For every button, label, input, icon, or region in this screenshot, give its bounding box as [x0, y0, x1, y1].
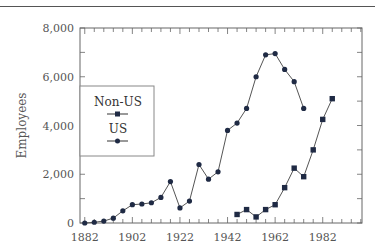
non-us-series-line — [237, 99, 332, 217]
us-data-point — [120, 208, 125, 213]
y-tick-label: 8,000 — [43, 22, 75, 35]
us-data-point — [234, 120, 239, 125]
x-tick-label: 1922 — [166, 231, 194, 244]
x-tick-label: 1902 — [118, 231, 146, 244]
us-data-point — [177, 205, 182, 210]
non-us-data-point — [253, 214, 258, 219]
non-us-data-point — [320, 117, 325, 122]
us-data-point — [82, 220, 87, 225]
us-data-point — [244, 106, 249, 111]
y-tick-label: 4,000 — [43, 120, 75, 133]
legend-circle-marker-icon — [115, 139, 120, 144]
us-data-point — [101, 218, 106, 223]
x-tick-label: 1942 — [214, 231, 242, 244]
us-data-point — [206, 177, 211, 182]
us-data-point — [158, 195, 163, 200]
us-data-point — [215, 169, 220, 174]
x-tick-label: 1882 — [71, 231, 99, 244]
us-data-point — [301, 106, 306, 111]
us-data-point — [282, 67, 287, 72]
us-data-point — [263, 52, 268, 57]
y-axis-title: Employees — [15, 92, 29, 158]
non-us-data-point — [311, 147, 316, 152]
us-data-point — [111, 216, 116, 221]
legend-label-non-us: Non-US — [94, 95, 142, 109]
x-tick-label: 1962 — [261, 231, 289, 244]
us-data-point — [292, 79, 297, 84]
non-us-data-point — [282, 185, 287, 190]
non-us-data-point — [301, 174, 306, 179]
us-data-point — [139, 201, 144, 206]
legend-square-marker-icon — [115, 112, 120, 117]
us-data-point — [149, 200, 154, 205]
legend-label-us: US — [109, 122, 127, 136]
x-tick-label: 1982 — [309, 231, 337, 244]
us-data-point — [92, 220, 97, 225]
employees-line-chart: 8,0006,0004,0002,00001882190219221942196… — [0, 0, 375, 249]
y-tick-label: 2,000 — [43, 168, 75, 181]
non-us-data-point — [272, 202, 277, 207]
non-us-data-point — [263, 207, 268, 212]
y-tick-label: 0 — [67, 217, 74, 230]
us-data-point — [168, 179, 173, 184]
us-data-point — [225, 128, 230, 133]
us-data-point — [254, 74, 259, 79]
us-data-point — [273, 51, 278, 56]
non-us-data-point — [291, 165, 296, 170]
us-data-point — [130, 202, 135, 207]
legend: Non-USUS — [80, 86, 154, 156]
non-us-data-point — [330, 96, 335, 101]
non-us-data-point — [244, 207, 249, 212]
non-us-data-point — [234, 212, 239, 217]
y-tick-label: 6,000 — [43, 71, 75, 84]
us-data-point — [196, 162, 201, 167]
us-data-point — [187, 198, 192, 203]
